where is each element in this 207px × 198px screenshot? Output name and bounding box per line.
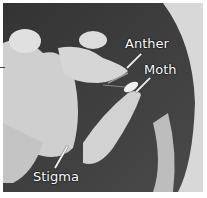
moth-label: Moth [144, 63, 177, 76]
photo-illustration [3, 3, 203, 192]
stigma-label: Stigma [33, 170, 79, 183]
anther-label: Anther [125, 37, 169, 50]
flower-moth-photo [3, 3, 203, 192]
edge-tick [0, 67, 5, 68]
